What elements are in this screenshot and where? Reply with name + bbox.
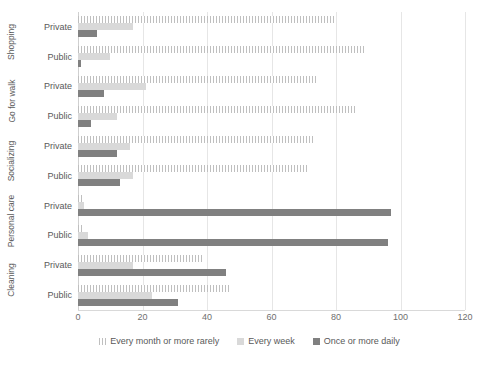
bar-once-or-more-daily xyxy=(78,269,226,276)
bar-every-month-or-more-rarely xyxy=(78,195,84,202)
category-rows: PrivatePublic xyxy=(22,191,78,251)
bar-row xyxy=(78,101,465,131)
bar-every-month-or-more-rarely xyxy=(78,46,365,53)
x-tick-label: 120 xyxy=(457,312,472,322)
category-row-label: Public xyxy=(22,101,78,131)
category-group: ShoppingPrivatePublic xyxy=(0,12,78,72)
bar-group xyxy=(78,72,465,132)
bar-every-week xyxy=(78,143,130,150)
bar-once-or-more-daily xyxy=(78,179,120,186)
bar-every-week xyxy=(78,172,133,179)
x-axis-tick-labels: 020406080100120 xyxy=(78,312,465,326)
bar-group xyxy=(78,131,465,191)
x-tick-label: 60 xyxy=(266,312,276,322)
legend-label: Once or more daily xyxy=(324,336,400,346)
bar-row xyxy=(78,250,465,280)
bar-once-or-more-daily xyxy=(78,30,97,37)
category-group-label: Personal care xyxy=(0,191,22,251)
bar-every-month-or-more-rarely xyxy=(78,136,313,143)
category-row-label: Public xyxy=(22,280,78,310)
category-group-label: Go for walk xyxy=(0,72,22,132)
bar-every-week xyxy=(78,262,133,269)
legend-swatch-icon xyxy=(237,338,244,345)
bar-once-or-more-daily xyxy=(78,150,117,157)
category-rows: PrivatePublic xyxy=(22,250,78,310)
x-tick-label: 100 xyxy=(393,312,408,322)
category-row-label: Public xyxy=(22,161,78,191)
bar-row xyxy=(78,131,465,161)
bar-row xyxy=(78,42,465,72)
bar-row xyxy=(78,280,465,310)
category-row-label: Private xyxy=(22,131,78,161)
bar-group xyxy=(78,250,465,310)
bar-every-week xyxy=(78,113,117,120)
x-tick-label: 20 xyxy=(137,312,147,322)
bar-every-week xyxy=(78,23,133,30)
category-group: SocializingPrivatePublic xyxy=(0,131,78,191)
x-tick-label: 0 xyxy=(75,312,80,322)
x-tick-label: 80 xyxy=(331,312,341,322)
bar-every-month-or-more-rarely xyxy=(78,255,204,262)
category-group-label: Cleaning xyxy=(0,250,22,310)
bar-every-week xyxy=(78,232,88,239)
category-row-label: Private xyxy=(22,12,78,42)
category-rows: PrivatePublic xyxy=(22,12,78,72)
bar-every-week xyxy=(78,83,146,90)
category-group-label-text: Go for walk xyxy=(6,80,16,123)
category-group-label-text: Personal care xyxy=(6,194,16,246)
bar-row xyxy=(78,221,465,251)
bar-every-month-or-more-rarely xyxy=(78,165,307,172)
category-rows: PrivatePublic xyxy=(22,131,78,191)
category-group-label: Socializing xyxy=(0,131,22,191)
bar-every-week xyxy=(78,202,84,209)
category-group-label-text: Shopping xyxy=(6,24,16,60)
bar-row xyxy=(78,191,465,221)
category-axis: ShoppingPrivatePublicGo for walkPrivateP… xyxy=(0,12,78,310)
category-row-label: Public xyxy=(22,221,78,251)
category-group-label-text: Socializing xyxy=(6,141,16,182)
category-row-label: Private xyxy=(22,191,78,221)
bar-row xyxy=(78,12,465,42)
legend-label: Every week xyxy=(248,336,295,346)
bar-row xyxy=(78,72,465,102)
bar-chart: ShoppingPrivatePublicGo for walkPrivateP… xyxy=(0,0,499,368)
bar-every-month-or-more-rarely xyxy=(78,76,317,83)
bar-every-week xyxy=(78,292,152,299)
category-group: CleaningPrivatePublic xyxy=(0,250,78,310)
legend-item[interactable]: Every week xyxy=(237,336,295,346)
bar-every-month-or-more-rarely xyxy=(78,106,355,113)
legend-label: Every month or more rarely xyxy=(110,336,219,346)
category-group-label: Shopping xyxy=(0,12,22,72)
legend-swatch-icon xyxy=(313,338,320,345)
gridline-120 xyxy=(465,12,466,310)
plot-area xyxy=(78,12,465,310)
bar-once-or-more-daily xyxy=(78,209,391,216)
bar-every-week xyxy=(78,53,110,60)
chart-legend: Every month or more rarelyEvery weekOnce… xyxy=(0,336,499,346)
legend-item[interactable]: Once or more daily xyxy=(313,336,400,346)
category-row-label: Public xyxy=(22,42,78,72)
bar-group xyxy=(78,12,465,72)
x-axis-line xyxy=(78,310,465,311)
bar-once-or-more-daily xyxy=(78,60,81,67)
category-rows: PrivatePublic xyxy=(22,72,78,132)
bar-every-month-or-more-rarely xyxy=(78,225,84,232)
legend-swatch-icon xyxy=(99,338,106,345)
legend-item[interactable]: Every month or more rarely xyxy=(99,336,219,346)
bar-group xyxy=(78,191,465,251)
bar-every-month-or-more-rarely xyxy=(78,285,230,292)
category-row-label: Private xyxy=(22,72,78,102)
bar-once-or-more-daily xyxy=(78,90,104,97)
bar-once-or-more-daily xyxy=(78,120,91,127)
bar-every-month-or-more-rarely xyxy=(78,16,336,23)
x-tick-label: 40 xyxy=(202,312,212,322)
bar-once-or-more-daily xyxy=(78,299,178,306)
bar-once-or-more-daily xyxy=(78,239,388,246)
bar-row xyxy=(78,161,465,191)
category-group: Go for walkPrivatePublic xyxy=(0,72,78,132)
category-row-label: Private xyxy=(22,250,78,280)
category-group-label-text: Cleaning xyxy=(6,263,16,297)
category-group: Personal carePrivatePublic xyxy=(0,191,78,251)
